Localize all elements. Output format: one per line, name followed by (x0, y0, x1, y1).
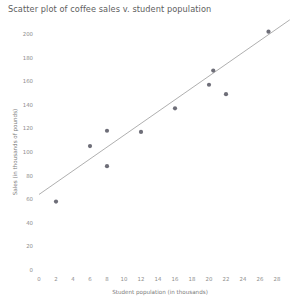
data-point (266, 30, 270, 34)
y-tick-label: 120 (23, 125, 34, 131)
trend-line-segment (39, 20, 290, 195)
x-tick-label: 2 (54, 276, 57, 282)
y-tick-label: 160 (23, 78, 34, 84)
x-tick-label: 8 (105, 276, 109, 282)
x-tick-label: 4 (71, 276, 75, 282)
x-tick-label: 0 (37, 276, 41, 282)
scatter-chart: Scatter plot of coffee sales v. student … (0, 0, 304, 303)
y-tick-label: 100 (23, 149, 34, 155)
x-tick-label: 16 (172, 276, 179, 282)
data-point (173, 106, 177, 110)
data-point (88, 144, 92, 148)
y-tick-label: 200 (23, 31, 34, 37)
y-axis-label: Sales (in thousands of pounds) (12, 109, 19, 195)
x-tick-label: 10 (121, 276, 128, 282)
x-axis-ticks: 0246810121416182022242628 (37, 276, 281, 282)
data-point (105, 129, 109, 133)
x-tick-label: 6 (88, 276, 92, 282)
y-tick-label: 180 (23, 55, 34, 61)
y-axis-ticks: 020406080100120140160180200 (23, 31, 34, 273)
y-tick-label: 0 (30, 267, 34, 273)
x-tick-label: 28 (274, 276, 281, 282)
y-tick-label: 80 (26, 173, 33, 179)
x-tick-label: 24 (240, 276, 247, 282)
trend-line (39, 20, 290, 195)
x-tick-label: 20 (206, 276, 213, 282)
data-point (207, 83, 211, 87)
x-tick-label: 12 (138, 276, 145, 282)
x-tick-label: 26 (257, 276, 264, 282)
data-point (211, 68, 215, 72)
plot-area: 020406080100120140160180200 024681012141… (0, 0, 304, 303)
data-point (54, 199, 58, 203)
y-tick-label: 60 (26, 196, 33, 202)
x-tick-label: 14 (155, 276, 162, 282)
y-tick-label: 140 (23, 102, 34, 108)
y-tick-label: 20 (26, 243, 33, 249)
x-tick-label: 18 (189, 276, 196, 282)
x-axis-label: Student population (in thousands) (112, 289, 208, 296)
data-point (105, 164, 109, 168)
data-point (139, 130, 143, 134)
y-tick-label: 40 (26, 220, 33, 226)
x-tick-label: 22 (223, 276, 230, 282)
data-point (224, 92, 228, 96)
